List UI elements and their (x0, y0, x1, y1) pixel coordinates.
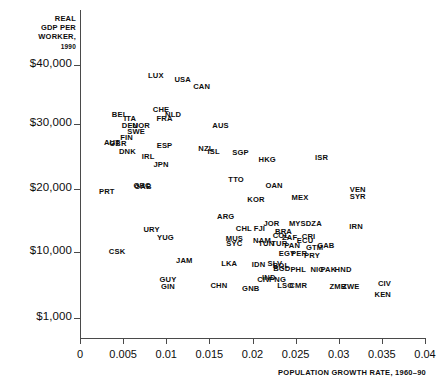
data-point-label: ARG (217, 213, 234, 221)
y-axis-title-line-1: REAL (8, 14, 76, 23)
data-point-label: LKA (221, 260, 237, 268)
data-point-label: HND (335, 266, 352, 274)
y-tick-mark (74, 124, 80, 125)
x-tick-label: 0.01 (156, 348, 177, 360)
x-tick-label: 0.02 (242, 348, 263, 360)
data-point-label: SYR (350, 193, 366, 201)
data-point-label: MEX (291, 194, 308, 202)
x-tick-mark (166, 338, 167, 344)
y-tick-label: $30,000 (0, 116, 72, 128)
data-point-label: BGD (273, 265, 290, 273)
data-point-label: GIN (161, 283, 175, 291)
x-tick-mark (425, 338, 426, 344)
data-point-label: JPN (153, 161, 168, 169)
x-tick-label: 0.005 (109, 348, 137, 360)
data-point-label: IDN (252, 261, 266, 269)
data-point-label: KEN (374, 291, 390, 299)
x-tick-mark (339, 338, 340, 344)
y-axis-line (80, 10, 81, 338)
y-tick-mark (74, 318, 80, 319)
data-point-label: CSK (109, 248, 125, 256)
x-tick-label: 0.025 (282, 348, 310, 360)
data-point-label: DZA (306, 220, 322, 228)
data-point-label: ISR (315, 154, 328, 162)
data-point-label: GNB (242, 285, 259, 293)
data-point-label: YUG (157, 234, 174, 242)
data-point-label: CHN (210, 282, 227, 290)
y-tick-label: $20,000 (0, 181, 72, 193)
data-point-label: CMR (289, 282, 307, 290)
data-point-label: GAB (317, 242, 334, 250)
x-tick-mark (209, 338, 210, 344)
data-point-label: AUS (212, 122, 228, 130)
x-axis-title: POPULATION GROWTH RATE, 1960–90 (0, 368, 426, 377)
data-point-label: PRY (304, 252, 320, 260)
data-point-label: FRA (156, 115, 172, 123)
data-point-label: DNK (119, 148, 136, 156)
y-axis-title: REAL GDP PER WORKER, 1990 (8, 14, 76, 51)
y-tick-mark (74, 252, 80, 253)
y-tick-label: $1,000 (0, 310, 72, 322)
data-point-label: KOR (247, 196, 264, 204)
data-point-label: ISL (208, 148, 220, 156)
data-point-label: LUX (148, 72, 164, 80)
x-tick-mark (123, 338, 124, 344)
data-point-label: SYC (226, 240, 242, 248)
data-point-label: ESP (157, 142, 173, 150)
x-tick-label: 0.03 (328, 348, 349, 360)
data-point-label: SGP (232, 149, 249, 157)
x-tick-label: 0 (77, 348, 83, 360)
y-axis-title-year: 1990 (8, 42, 76, 51)
data-point-label: ZWE (342, 283, 359, 291)
y-axis-title-line-3: WORKER, (8, 32, 76, 41)
data-point-label: GAB (134, 183, 151, 191)
data-point-label: MYS (289, 220, 306, 228)
data-point-label: JAM (176, 257, 192, 265)
x-tick-mark (253, 338, 254, 344)
x-tick-mark (382, 338, 383, 344)
x-tick-label: 0.015 (196, 348, 224, 360)
x-tick-mark (80, 338, 81, 344)
y-tick-mark (74, 189, 80, 190)
x-tick-label: 0.035 (368, 348, 396, 360)
data-point-label: PRT (99, 188, 115, 196)
y-tick-label: $10,000 (0, 244, 72, 256)
x-tick-mark (296, 338, 297, 344)
x-tick-label: 0.04 (414, 348, 435, 360)
y-tick-mark (74, 65, 80, 66)
data-point-label: CIV (378, 280, 391, 288)
data-point-label: CHL (236, 225, 252, 233)
data-point-label: OAN (265, 182, 282, 190)
data-point-label: USA (174, 76, 190, 84)
y-tick-label: $40,000 (0, 57, 72, 69)
data-point-label: TTO (228, 176, 244, 184)
data-point-label: HKG (258, 156, 275, 164)
data-point-label: PHL (290, 266, 306, 274)
data-point-label: IRN (349, 223, 363, 231)
y-axis-title-line-2: GDP PER (8, 23, 76, 32)
data-point-label: CAN (193, 83, 210, 91)
